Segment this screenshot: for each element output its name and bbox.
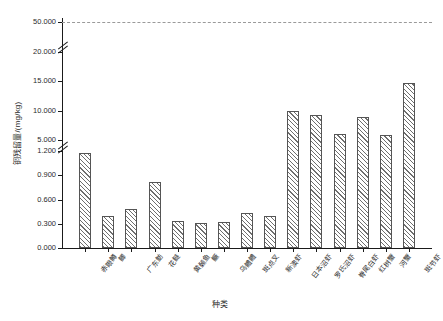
bar <box>380 135 392 248</box>
y-tick-label: 20.000 <box>10 48 56 56</box>
plot-area: 赤眼鳟鲫广东鲂花鲢黄颡鱼鳜乌鳢鳢斑点叉新澳虾日本沼虾罗氏沼虾脊尾白虾红树蟹河蟹斑… <box>62 18 432 248</box>
y-tick-label: 0.900 <box>10 171 56 179</box>
x-tick-mark <box>131 248 132 252</box>
bar <box>287 111 299 248</box>
bar <box>79 153 91 248</box>
bar <box>403 83 415 248</box>
bar <box>102 216 114 248</box>
bar <box>310 115 322 248</box>
y-tick-mark <box>58 22 62 23</box>
x-tick-mark <box>270 248 271 252</box>
y-tick-mark <box>58 224 62 225</box>
x-axis-title: 种类 <box>0 298 440 309</box>
x-category-label: 黄颡鱼 <box>191 252 212 275</box>
x-category-label: 斑点叉 <box>260 252 281 275</box>
x-tick-mark <box>85 248 86 252</box>
x-tick-mark <box>201 248 202 252</box>
x-tick-mark <box>340 248 341 252</box>
y-axis-line <box>62 18 63 248</box>
y-axis-tick-labels: 0.0000.3000.6000.9001.2005.00010.00015.0… <box>4 0 56 321</box>
x-category-label: 乌鳢鳢 <box>237 252 258 275</box>
y-tick-mark <box>58 248 62 249</box>
x-category-label: 罗氏沼虾 <box>332 252 357 280</box>
y-tick-mark <box>58 111 62 112</box>
x-category-label: 河蟹 <box>396 252 412 269</box>
y-tick-label: 0.300 <box>10 220 56 228</box>
x-tick-mark <box>363 248 364 252</box>
bar <box>218 222 230 248</box>
y-tick-mark <box>58 81 62 82</box>
y-tick-label: 0.000 <box>10 244 56 252</box>
bar <box>195 223 207 248</box>
x-category-label: 日本沼虾 <box>309 252 334 280</box>
x-tick-mark <box>178 248 179 252</box>
x-category-label: 花鲢 <box>165 252 181 269</box>
x-category-label: 广东鲂 <box>144 252 165 275</box>
x-tick-mark <box>108 248 109 252</box>
x-tick-mark <box>247 248 248 252</box>
y-tick-label: 5.000 <box>10 136 56 144</box>
y-tick-mark <box>58 200 62 201</box>
x-tick-mark <box>224 248 225 252</box>
y-tick-label: 1.200 <box>10 147 56 155</box>
y-tick-label: 10.000 <box>10 107 56 115</box>
x-tick-mark <box>316 248 317 252</box>
bar <box>149 182 161 248</box>
y-tick-label: 50.000 <box>10 18 56 26</box>
x-tick-mark <box>386 248 387 252</box>
x-category-label: 鳜 <box>208 252 220 264</box>
bar <box>125 209 137 248</box>
x-category-label: 斑节虾 <box>422 252 443 275</box>
bar <box>241 213 253 248</box>
bar <box>357 117 369 248</box>
y-tick-mark <box>58 175 62 176</box>
x-tick-mark <box>293 248 294 252</box>
y-tick-mark <box>58 140 62 141</box>
limit-reference-line <box>62 22 432 23</box>
y-tick-label: 0.600 <box>10 196 56 204</box>
x-tick-mark <box>155 248 156 252</box>
bar <box>172 221 184 248</box>
bar <box>264 216 276 248</box>
y-tick-label: 15.000 <box>10 77 56 85</box>
x-tick-mark <box>409 248 410 252</box>
x-category-label: 新澳虾 <box>283 252 304 275</box>
x-category-label: 红树蟹 <box>376 252 397 275</box>
bar <box>334 134 346 248</box>
x-category-label: 鲫 <box>116 252 128 264</box>
